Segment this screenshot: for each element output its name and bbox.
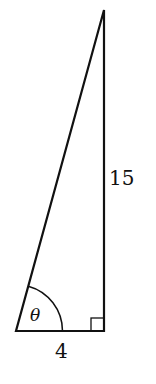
angle-label: θ bbox=[30, 305, 40, 325]
triangle-diagram: θ 15 4 bbox=[0, 0, 156, 384]
right-angle-marker bbox=[91, 318, 104, 331]
horizontal-side-label: 4 bbox=[55, 339, 68, 363]
vertical-side-label: 15 bbox=[109, 166, 134, 190]
right-triangle bbox=[16, 10, 104, 331]
